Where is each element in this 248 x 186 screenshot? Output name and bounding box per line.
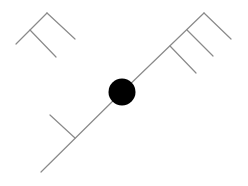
barb-shaft [41,92,122,172]
barb-shaft [122,13,204,92]
station-circle [109,79,136,106]
barb-tick [50,115,75,138]
upper-left-barb [16,13,75,57]
barb-tick [204,13,231,39]
lower-left-barb [41,92,122,172]
barb-tick [30,30,56,57]
barb-shaft [16,13,47,44]
barb-tick [170,46,196,73]
wind-barb-diagram [0,0,248,186]
barb-tick [187,30,213,56]
barb-tick [47,13,75,39]
upper-right-barb [122,13,231,92]
diagram-svg [0,0,248,186]
